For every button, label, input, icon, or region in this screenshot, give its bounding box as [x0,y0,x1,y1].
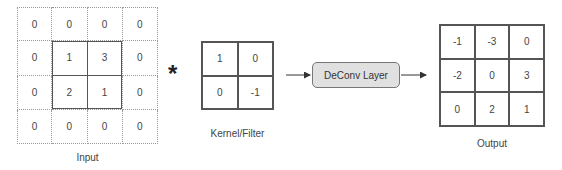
output-cell: -1 [440,25,475,59]
output-cell: 0 [475,59,510,93]
output-cell: -2 [440,59,475,93]
output-cell: 3 [509,59,544,93]
output-cell: 1 [509,92,544,126]
output-label: Output [439,138,545,149]
output-cell: 0 [509,25,544,59]
output-matrix: -1 -3 0 -2 0 3 0 2 1 [439,24,545,127]
output-cell: -3 [475,25,510,59]
output-cell: 0 [440,92,475,126]
deconv-layer-label: DeConv Layer [324,70,388,81]
deconv-layer-box: DeConv Layer [312,62,400,88]
output-cell: 2 [475,92,510,126]
